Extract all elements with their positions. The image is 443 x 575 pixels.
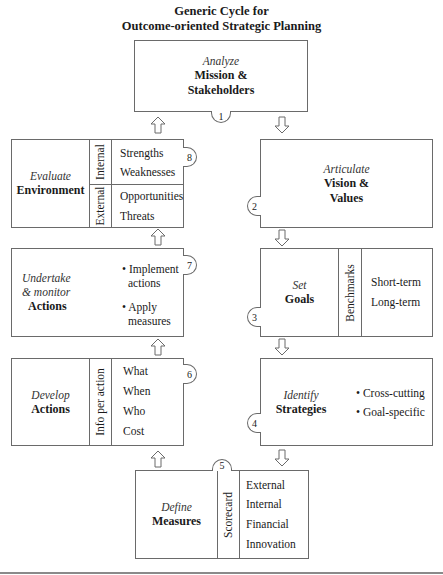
arrow-down-icon (274, 338, 290, 356)
step-6-item: What (123, 364, 148, 378)
step-5-verb: Define (161, 500, 192, 514)
step-3-title-cell: Set Goals (261, 249, 338, 336)
step-8-item: Threats (120, 209, 154, 223)
arrow-up-icon (150, 228, 166, 246)
step-4-title-cell: Identify Strategies (261, 359, 341, 445)
step-3-verb: Set (292, 278, 306, 292)
step-3-number-badge: 3 (247, 307, 261, 327)
title-line-1: Generic Cycle for (0, 4, 443, 19)
step-1-number-badge: 1 (211, 111, 231, 123)
step-2-number-badge: 2 (247, 196, 261, 216)
divider (361, 249, 362, 336)
step-5-noun: Measures (152, 514, 201, 529)
step-8-item: Strengths (120, 146, 163, 160)
step-7-item: • Implement (122, 262, 179, 276)
step-6-title-cell: Develop Actions (12, 359, 89, 445)
step-5-item: Financial (246, 517, 289, 531)
bottom-divider (0, 572, 443, 574)
step-8-number-badge: 8 (183, 147, 197, 167)
step-1-verb: Analyze (203, 54, 239, 68)
title-line-2: Outcome-oriented Strategic Planning (0, 19, 443, 34)
step-5-side-label: Scorecard (217, 471, 239, 558)
arrow-up-icon (150, 338, 166, 356)
step-5-item: Internal (246, 497, 282, 511)
step-5-title-cell: Define Measures (136, 471, 217, 558)
arrow-down-icon (274, 449, 290, 467)
step-6-item: Who (123, 404, 145, 418)
step-1-noun-line1: Mission & (194, 68, 247, 83)
step-3-item: Short-term (371, 275, 421, 289)
step-8-verb: Evaluate (30, 169, 71, 183)
step-8-item: Opportunities (120, 189, 183, 203)
step-6-noun: Actions (31, 402, 70, 417)
step-4-item: • Cross-cutting (356, 386, 425, 400)
step-3-set-goals-box: Set Goals Benchmarks Short-term Long-ter… (260, 248, 433, 337)
step-4-noun: Strategies (276, 402, 327, 417)
step-6-side-label: Info per action (89, 359, 111, 445)
step-6-verb: Develop (31, 388, 69, 402)
step-2-noun-line2: Values (330, 191, 364, 206)
step-1-analyze-box: Analyze Mission & Stakeholders (134, 40, 308, 112)
arrow-up-icon (150, 450, 166, 468)
step-3-noun: Goals (285, 292, 314, 307)
arrow-down-icon (274, 229, 290, 247)
step-7-verb-line1: Undertake (22, 271, 87, 285)
step-7-number-badge: 7 (183, 255, 197, 275)
step-5-number-badge: 5 (212, 459, 232, 471)
step-6-number-badge: 6 (183, 364, 197, 384)
step-7-noun: Actions (22, 299, 87, 314)
step-7-item: actions (128, 276, 161, 290)
step-7-title-cell: Undertake & monitor Actions (12, 249, 87, 336)
step-8-noun: Environment (17, 183, 85, 198)
step-6-item: When (123, 384, 150, 398)
step-8-title-cell: Evaluate Environment (12, 140, 89, 227)
step-8-item: Weaknesses (120, 165, 175, 179)
step-4-identify-strategies-box: Identify Strategies • Cross-cutting • Go… (260, 358, 433, 446)
step-6-item: Cost (123, 424, 144, 438)
step-3-side-label: Benchmarks (338, 249, 361, 336)
divider (111, 359, 112, 445)
step-5-item: External (246, 478, 285, 492)
step-8-group-label-internal: Internal (89, 140, 111, 184)
step-4-verb: Identify (283, 388, 318, 402)
step-2-verb: Articulate (324, 162, 370, 176)
step-8-group-label-external: External (89, 184, 111, 228)
diagram-title: Generic Cycle for Outcome-oriented Strat… (0, 4, 443, 34)
step-8-evaluate-environment-box: Evaluate Environment Internal External S… (11, 139, 184, 228)
step-7-item: measures (128, 314, 171, 328)
step-2-articulate-box: Articulate Vision & Values (260, 139, 433, 228)
step-5-define-measures-box: Define Measures Scorecard External Inter… (135, 470, 309, 559)
step-1-noun-line2: Stakeholders (188, 83, 255, 98)
step-7-verb-line2: & monitor (22, 285, 87, 299)
step-5-item: Innovation (246, 537, 296, 551)
step-4-number-badge: 4 (247, 413, 261, 433)
step-3-item: Long-term (371, 295, 420, 309)
arrow-down-icon (274, 116, 290, 134)
divider (239, 471, 240, 558)
step-6-develop-actions-box: Develop Actions Info per action What Whe… (11, 358, 184, 446)
arrow-up-icon (150, 116, 166, 134)
step-7-item: • Apply (122, 300, 157, 314)
step-7-undertake-actions-box: Undertake & monitor Actions • Implement … (11, 248, 184, 337)
step-4-item: • Goal-specific (356, 405, 425, 419)
step-2-noun-line1: Vision & (324, 176, 369, 191)
